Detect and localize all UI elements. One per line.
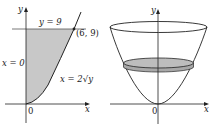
top-ellipse [110, 22, 207, 33]
x-axis-label: x [204, 104, 209, 114]
curve-label: x = 2√y [60, 74, 93, 84]
y-axis-label: y [150, 5, 156, 15]
point-6-9 [73, 28, 76, 31]
point-label: (6, 9) [76, 28, 99, 38]
diagram-canvas: y x 0 y = 9 x = 0 (6, 9) x = 2√y y x 0 [0, 0, 211, 127]
line-y-9-label: y = 9 [38, 17, 62, 27]
y-axis-label: y [17, 4, 23, 14]
origin-label: 0 [152, 106, 157, 116]
solid-of-revolution: y x 0 [110, 5, 209, 124]
line-x-0-label: x = 0 [2, 58, 25, 68]
disk-top [124, 58, 194, 68]
shaded-region [26, 29, 74, 104]
origin-label: 0 [28, 106, 33, 116]
y-axis-arrow-icon [24, 7, 28, 12]
y-axis-arrow-icon [156, 9, 160, 14]
x-axis-label: x [85, 104, 90, 114]
region-plot: y x 0 y = 9 x = 0 (6, 9) x = 2√y [2, 4, 99, 123]
